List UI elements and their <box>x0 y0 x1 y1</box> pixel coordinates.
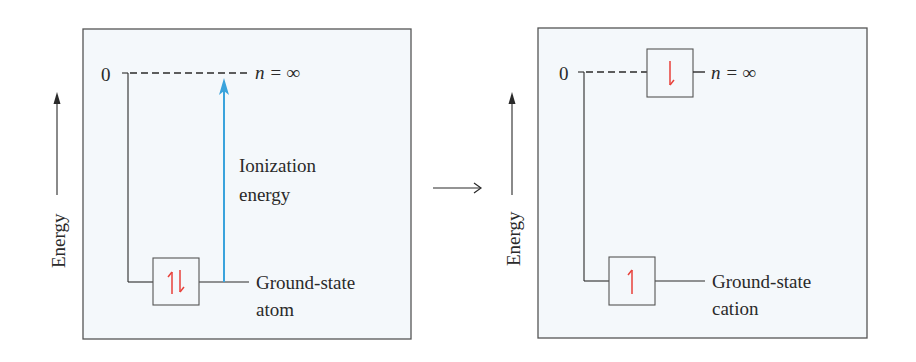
left-infinity-label: n = ∞ <box>255 62 300 83</box>
right-ground-orbital <box>609 257 655 305</box>
left-zero-label: 0 <box>101 64 111 85</box>
right-energy-axis: Energy <box>503 92 524 266</box>
right-panel-frame <box>538 28 867 338</box>
left-ground-label-line2: atom <box>256 299 294 320</box>
right-infinity-orbital <box>647 49 693 97</box>
ionization-diagram: Energy 0 n = ∞ Ionization energy <box>0 0 916 362</box>
right-panel: Energy 0 n = ∞ Ground-state cation <box>503 28 867 338</box>
right-zero-label: 0 <box>559 63 569 84</box>
ionization-label-line2: energy <box>239 184 291 205</box>
right-infinity-label: n = ∞ <box>711 62 756 83</box>
right-ground-label-line1: Ground-state <box>712 271 811 292</box>
left-ground-orbital <box>153 258 199 305</box>
ionization-label-line1: Ionization <box>239 155 317 176</box>
right-ground-label-line2: cation <box>712 298 759 319</box>
left-panel: Energy 0 n = ∞ Ionization energy <box>48 29 411 339</box>
process-arrow-icon <box>433 183 481 193</box>
right-energy-label: Energy <box>503 211 524 266</box>
left-energy-label: Energy <box>48 213 69 268</box>
left-ground-label-line1: Ground-state <box>256 272 355 293</box>
left-energy-axis: Energy <box>48 92 69 268</box>
